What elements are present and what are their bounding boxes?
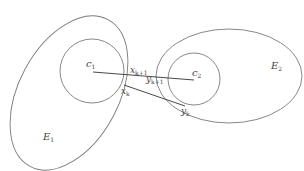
circle-c1 — [60, 39, 124, 103]
label-c2: c2 — [192, 67, 202, 79]
label-x-k1: xk+1 — [130, 65, 148, 76]
label-e1: E1 — [42, 131, 54, 143]
label-c1: c1 — [86, 58, 95, 70]
label-x-k: xk — [121, 86, 130, 97]
label-e2: E2 — [270, 60, 282, 72]
ellipse-e1 — [0, 0, 152, 171]
ellipsoid-projection-diagram: c1 c2 E1 E2 xk+1 xk yk+1 yk — [0, 0, 304, 171]
label-y-k: yk — [180, 106, 190, 117]
label-y-k1: yk+1 — [145, 74, 164, 85]
line-xk-yk — [124, 85, 185, 106]
ellipse-e2 — [156, 29, 302, 123]
